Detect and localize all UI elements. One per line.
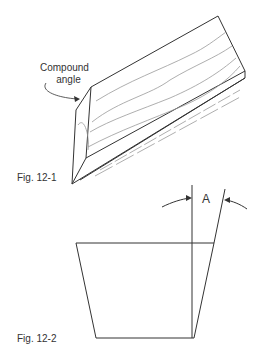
callout-label: Compound angle bbox=[40, 62, 89, 86]
figure-12-2-trapezoid-drawing bbox=[76, 185, 247, 338]
wood-grain-lines bbox=[78, 32, 242, 176]
callout-line2: angle bbox=[48, 74, 89, 86]
fig-12-2-caption: Fig. 12-2 bbox=[17, 333, 56, 345]
board-bottom-edge bbox=[72, 78, 245, 184]
callout-arrowhead-icon bbox=[74, 96, 80, 102]
trapezoid bbox=[76, 243, 214, 338]
slant-reference-line bbox=[214, 189, 225, 243]
arrowhead-left-icon bbox=[186, 195, 192, 201]
callout-line1: Compound bbox=[40, 62, 89, 74]
fig-12-1-caption: Fig. 12-1 bbox=[17, 172, 56, 184]
angle-arc-left bbox=[162, 198, 190, 207]
arrowhead-right-icon bbox=[224, 197, 230, 203]
angle-label: A bbox=[202, 193, 210, 205]
